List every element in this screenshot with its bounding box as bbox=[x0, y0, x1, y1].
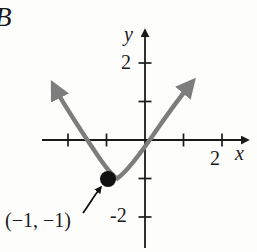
vertex-point-label: (−1, −1) bbox=[5, 210, 71, 230]
y-axis-label: y bbox=[124, 24, 133, 44]
part-label: B bbox=[0, 4, 12, 31]
parabola-figure: B y x 2 -2 2 (−1, −1) bbox=[0, 0, 257, 252]
x-axis-label: x bbox=[235, 143, 244, 163]
parabola-curve bbox=[54, 83, 192, 179]
y-tick-label-neg2: -2 bbox=[110, 205, 127, 225]
x-tick-label-2: 2 bbox=[210, 148, 220, 168]
vertex-point-marker bbox=[100, 171, 116, 187]
leader-arrow-line bbox=[83, 187, 101, 213]
parabola-path bbox=[54, 83, 192, 179]
y-tick-label-2: 2 bbox=[121, 52, 131, 72]
